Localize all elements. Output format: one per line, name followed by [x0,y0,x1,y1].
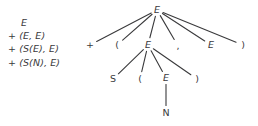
tree-node-lvl2-E: E [163,73,169,83]
tree-edge [97,13,152,42]
tree-node-lvl2-rpar: ) [195,74,199,84]
tree-node-lvl1-rpar: ) [241,40,245,50]
tree-edge [123,14,152,40]
tree-node-lvl2-lpar: ( [138,74,142,84]
tree-node-lvl1-plus: + [86,40,94,50]
tree-edge [153,49,191,75]
tree-node-lvl1-comma: , [176,41,179,51]
tree-edge [118,50,143,74]
tree-edge [142,51,147,71]
tree-node-lvl1-lpar: ( [115,40,119,50]
parse-tree-edges [0,0,258,126]
tree-node-root-E: E [154,5,160,15]
tree-node-lvl2-S: S [110,74,116,84]
tree-edge [150,16,156,37]
tree-node-lvl1-E2: E [208,40,214,50]
tree-node-lvl3-N: N [162,108,169,118]
tree-node-lvl1-E: E [145,40,151,50]
grammar-derivation-and-parse-tree-figure: E + (E, E) + (S(E), E) + (S(N), E) E+(E,… [0,0,258,126]
